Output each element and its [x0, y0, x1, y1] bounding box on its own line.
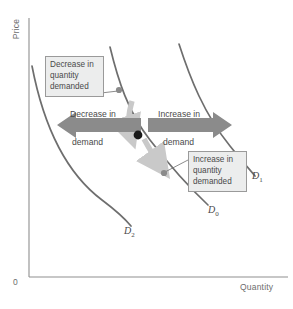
point-decrease-quantity-demanded	[116, 87, 122, 93]
curve-label-d2: D2	[124, 225, 135, 239]
callout-line-1: Decrease in	[50, 59, 99, 70]
decrease-in-demand-label-line2: demand	[72, 137, 103, 147]
increase-in-demand-label-line2: demand	[163, 137, 194, 147]
callout-decrease-quantity-demanded: Decrease in quantity demanded	[45, 56, 104, 97]
curve-label-d0: D0	[208, 204, 219, 218]
callout-line-3: demanded	[50, 81, 99, 92]
increase-in-demand-label-line1: Increase in	[158, 109, 200, 119]
demand-curve-figure: Price Quantity 0 Decrease in quantity de…	[0, 0, 293, 309]
curve-label-d2-sub: 2	[131, 231, 135, 239]
x-axis-label: Quantity	[240, 282, 273, 292]
decrease-in-demand-label-line1: Decrease in	[70, 109, 116, 119]
curve-label-d0-sub: 0	[215, 210, 219, 218]
callout-line-3: demanded	[193, 176, 242, 187]
callout-line-1: Increase in	[193, 154, 242, 165]
curve-label-d1: D1	[252, 170, 263, 184]
callout-increase-quantity-demanded: Increase in quantity demanded	[188, 151, 247, 192]
point-equilibrium	[134, 131, 143, 140]
curve-label-d1-sub: 1	[259, 176, 263, 184]
figure-graphics	[0, 0, 293, 309]
callout-line-2: quantity	[50, 70, 99, 81]
callout-line-2: quantity	[193, 165, 242, 176]
y-axis-label: Price	[11, 9, 21, 49]
point-increase-quantity-demanded	[161, 170, 167, 176]
origin-label: 0	[13, 277, 18, 287]
